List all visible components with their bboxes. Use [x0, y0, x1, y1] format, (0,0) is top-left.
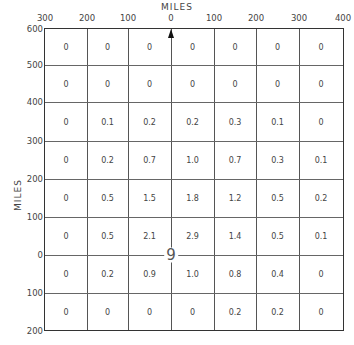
x-tick-label: 100 — [120, 13, 136, 23]
x-tick-label: 300 — [37, 13, 53, 23]
y-tick-label: 400 — [13, 97, 43, 107]
center-symbol: 9 — [164, 248, 178, 263]
plot-frame — [44, 28, 344, 331]
y-tick-label: 600 — [13, 24, 43, 34]
y-tick-label: 300 — [13, 136, 43, 146]
y-tick-label: 200 — [13, 326, 43, 336]
x-axis-title: MILES — [0, 2, 354, 12]
y-axis-title: MILES — [13, 175, 23, 215]
y-tick-label: 100 — [13, 288, 43, 298]
x-tick-label: 200 — [79, 13, 95, 23]
x-tick-label: 0 — [168, 13, 173, 23]
x-tick-label: 300 — [291, 13, 307, 23]
y-tick-label: 0 — [13, 250, 43, 260]
x-tick-label: 200 — [248, 13, 264, 23]
x-tick-label: 400 — [335, 13, 351, 23]
north-arrow-icon — [168, 29, 174, 38]
x-tick-label: 100 — [206, 13, 222, 23]
y-tick-label: 500 — [13, 60, 43, 70]
